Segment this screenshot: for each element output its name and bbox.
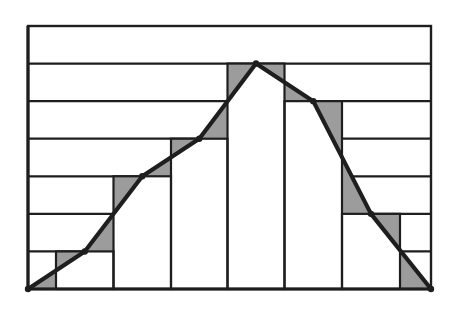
polygon-vertex	[428, 286, 434, 292]
polygon-vertex	[253, 60, 259, 66]
polygon-vertex	[196, 136, 202, 142]
polygon-vertex	[368, 211, 374, 217]
histogram-bar	[228, 64, 285, 289]
histogram-bar	[171, 139, 228, 289]
polygon-vertex	[310, 98, 316, 104]
polygon-vertex	[25, 286, 31, 292]
polygon-vertex	[139, 173, 145, 179]
chart-canvas	[0, 0, 451, 311]
polygon-vertex	[82, 248, 88, 254]
histogram-chart: histogram-with-frequency-polygon	[0, 0, 451, 311]
